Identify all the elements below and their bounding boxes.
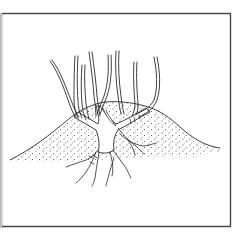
illustration-frame: [0, 0, 241, 236]
stool-bed-illustration: [0, 0, 241, 236]
